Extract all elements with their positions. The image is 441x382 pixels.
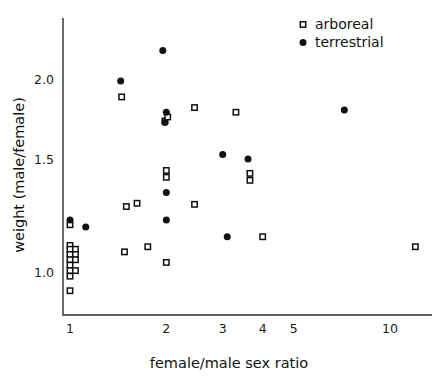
data-point-terrestrial <box>163 189 170 196</box>
data-point-arboreal <box>145 244 150 249</box>
scatter-plot-figure: 1234510 1.01.52.0 arborealterrestrial fe… <box>0 0 441 382</box>
x-tick-label: 4 <box>259 321 267 336</box>
data-point-terrestrial <box>161 119 168 126</box>
data-point-arboreal <box>73 257 78 262</box>
data-point-arboreal <box>134 201 139 206</box>
legend-marker-terrestrial <box>300 39 307 46</box>
data-point-terrestrial <box>163 217 170 224</box>
data-point-arboreal <box>247 171 252 176</box>
y-tick-label: 1.5 <box>34 152 54 167</box>
data-point-arboreal <box>67 274 72 279</box>
data-point-arboreal <box>260 234 265 239</box>
data-point-arboreal <box>247 178 252 183</box>
data-point-arboreal <box>124 204 129 209</box>
x-axis-tick-labels: 1234510 <box>66 321 398 336</box>
data-point-arboreal <box>73 268 78 273</box>
x-tick-label: 5 <box>290 321 298 336</box>
x-tick-label: 10 <box>382 321 398 336</box>
data-point-arboreal <box>413 244 418 249</box>
plot-axes <box>63 18 432 315</box>
y-axis-title: weight (male/female) <box>11 97 27 253</box>
x-tick-label: 3 <box>219 321 227 336</box>
y-tick-label: 2.0 <box>34 72 54 87</box>
data-point-arboreal <box>67 268 72 273</box>
data-point-terrestrial <box>82 224 89 231</box>
data-point-arboreal <box>122 249 127 254</box>
data-point-terrestrial <box>224 233 231 240</box>
data-point-terrestrial <box>67 217 74 224</box>
data-point-terrestrial <box>159 47 166 54</box>
plot-canvas: 1234510 1.01.52.0 arborealterrestrial fe… <box>0 0 441 382</box>
data-point-arboreal <box>67 288 72 293</box>
data-point-arboreal <box>164 175 169 180</box>
data-point-arboreal <box>164 168 169 173</box>
x-axis-title: female/male sex ratio <box>150 355 308 371</box>
y-tick-label: 1.0 <box>34 265 54 280</box>
data-point-arboreal <box>119 94 124 99</box>
data-point-terrestrial <box>341 106 348 113</box>
data-point-terrestrial <box>245 156 252 163</box>
series-terrestrial <box>67 47 348 240</box>
data-point-arboreal <box>192 202 197 207</box>
chart-legend: arborealterrestrial <box>300 16 384 50</box>
legend-label-terrestrial: terrestrial <box>315 34 384 50</box>
x-tick-label: 1 <box>66 321 74 336</box>
data-point-arboreal <box>67 262 72 267</box>
axis-lines <box>63 18 432 315</box>
legend-label-arboreal: arboreal <box>315 16 373 32</box>
legend-marker-arboreal <box>300 22 305 27</box>
series-arboreal <box>67 94 418 293</box>
data-points-layer <box>67 47 419 293</box>
x-tick-label: 2 <box>162 321 170 336</box>
data-point-terrestrial <box>117 78 124 85</box>
data-point-arboreal <box>192 105 197 110</box>
y-axis-tick-labels: 1.01.52.0 <box>34 72 54 280</box>
data-point-arboreal <box>164 260 169 265</box>
data-point-arboreal <box>233 110 238 115</box>
data-point-arboreal <box>67 257 72 262</box>
data-point-terrestrial <box>219 151 226 158</box>
data-point-terrestrial <box>163 109 170 116</box>
